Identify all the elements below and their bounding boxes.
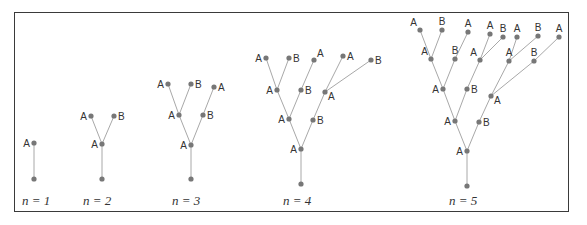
tree-node <box>99 176 104 181</box>
tree-edge <box>102 116 114 144</box>
tree-node <box>311 57 316 62</box>
tree-node <box>176 112 181 117</box>
tree-node <box>531 58 536 63</box>
node-label: A <box>278 114 285 125</box>
node-label: A <box>470 47 477 58</box>
tree-panel-n5: AABABAABAABABAABABAn = 5 <box>410 16 562 208</box>
tree-node <box>428 56 433 61</box>
node-label: A <box>432 84 439 95</box>
tree-node <box>340 53 345 58</box>
node-label: A <box>556 23 563 34</box>
tree-node <box>31 140 36 145</box>
panel-caption: n = 2 <box>83 193 112 208</box>
tree-node <box>514 34 519 39</box>
node-label: B <box>317 115 324 126</box>
tree-node <box>286 55 291 60</box>
tree-node <box>368 57 373 62</box>
tree-node <box>88 113 93 118</box>
trees-canvas: An = 1AABn = 2AABABAn = 3AABABAABAABn = … <box>0 0 587 225</box>
tree-node <box>440 86 445 91</box>
tree-edge <box>191 115 203 145</box>
tree-node <box>165 81 170 86</box>
tree-node <box>322 89 327 94</box>
node-label: B <box>500 23 507 34</box>
tree-edge <box>277 58 289 90</box>
tree-node <box>310 117 315 122</box>
tree-edge <box>431 30 442 59</box>
node-label: A <box>91 139 98 150</box>
tree-node <box>274 87 279 92</box>
tree-node <box>487 31 492 36</box>
panel-caption: n = 1 <box>22 193 50 208</box>
tree-node <box>506 58 511 63</box>
node-label: B <box>375 55 382 66</box>
node-label: A <box>255 53 262 64</box>
tree-node <box>188 81 193 86</box>
node-label: B <box>452 45 459 56</box>
panel-caption: n = 3 <box>172 193 201 208</box>
node-label: A <box>487 20 494 31</box>
panel-caption: n = 4 <box>283 193 312 208</box>
tree-node <box>464 86 469 91</box>
node-label: B <box>305 85 312 96</box>
tree-node <box>111 113 116 118</box>
tree-panel-n4: AABABAABAABn = 4 <box>255 48 382 208</box>
tree-node <box>439 27 444 32</box>
tree-edge <box>491 61 534 96</box>
tree-edge <box>289 90 301 119</box>
tree-panel-n1: An = 1 <box>22 138 50 209</box>
node-label: B <box>293 53 300 64</box>
tree-node <box>263 55 268 60</box>
tree-node <box>488 93 493 98</box>
tree-edge <box>491 61 509 96</box>
tree-node <box>465 29 470 34</box>
node-label: B <box>535 22 542 33</box>
tree-edge <box>179 84 191 115</box>
tree-node <box>556 34 561 39</box>
tree-node <box>200 112 205 117</box>
node-label: A <box>180 140 187 151</box>
tree-node <box>188 142 193 147</box>
node-label: B <box>439 16 446 27</box>
tree-node <box>188 176 193 181</box>
tree-node <box>31 176 36 181</box>
node-label: A <box>23 138 30 149</box>
tree-node <box>464 148 469 153</box>
node-label: A <box>514 23 521 34</box>
panel-caption: n = 5 <box>449 193 478 208</box>
node-label: A <box>328 91 335 102</box>
tree-node <box>286 116 291 121</box>
node-label: A <box>465 18 472 29</box>
tree-node <box>298 181 303 186</box>
node-label: A <box>444 116 451 127</box>
node-label: A <box>494 95 501 106</box>
tree-edge <box>443 59 455 89</box>
node-label: A <box>506 47 513 58</box>
tree-node <box>298 146 303 151</box>
node-label: A <box>157 79 164 90</box>
tree-edge <box>325 60 371 92</box>
tree-node <box>211 84 216 89</box>
node-label: A <box>456 146 463 157</box>
tree-node <box>535 33 540 38</box>
node-label: A <box>421 46 428 57</box>
tree-node <box>476 119 481 124</box>
node-label: B <box>195 79 202 90</box>
node-label: A <box>290 144 297 155</box>
node-label: B <box>207 110 214 121</box>
tree-node <box>452 118 457 123</box>
node-label: A <box>80 111 87 122</box>
tree-node <box>464 183 469 188</box>
tree-edge <box>480 34 490 60</box>
node-label: B <box>483 117 490 128</box>
tree-panel-n3: AABABAn = 3 <box>157 79 225 209</box>
node-label: A <box>218 82 225 93</box>
tree-edge <box>480 37 503 60</box>
tree-node <box>452 56 457 61</box>
tree-node <box>298 87 303 92</box>
tree-edge <box>301 120 313 149</box>
tree-edge <box>325 56 343 92</box>
tree-edge <box>534 37 559 61</box>
node-label: A <box>410 17 417 28</box>
tree-panel-n2: AABn = 2 <box>80 111 125 209</box>
